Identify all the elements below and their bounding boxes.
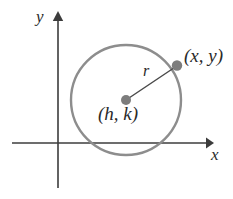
- circle-diagram-figure: y x (x, y) (h, k) r: [0, 0, 233, 199]
- y-axis-arrowhead: [53, 11, 63, 21]
- radius-label: r: [143, 63, 149, 79]
- x-axis-label: x: [211, 146, 219, 163]
- circle-point-dot: [172, 60, 182, 70]
- diagram-canvas: [0, 0, 233, 199]
- circle-point-label: (x, y): [184, 46, 223, 65]
- radius-segment: [126, 67, 176, 101]
- center-point-label: (h, k): [98, 104, 138, 123]
- y-axis-label: y: [36, 8, 44, 25]
